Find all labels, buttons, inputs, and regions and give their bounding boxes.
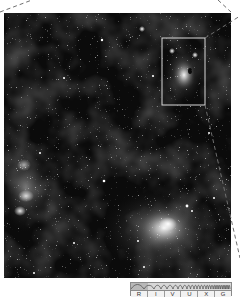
band-label-gamma: G: [214, 291, 231, 297]
band-label-visible: V: [164, 291, 181, 297]
spectrum-band-indicator: R I V U X G: [130, 282, 232, 296]
band-label-radio: R: [131, 291, 147, 297]
star-field-image: [4, 13, 231, 278]
band-label-infrared: I: [147, 291, 164, 297]
band-label-ultraviolet: U: [180, 291, 197, 297]
spectrum-band-labels: R I V U X G: [131, 290, 231, 297]
band-label-xray: X: [197, 291, 214, 297]
